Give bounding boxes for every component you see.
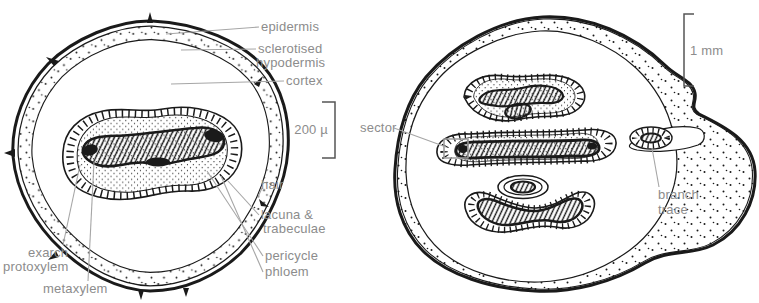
label-cortex: cortex bbox=[286, 74, 323, 88]
scale-label-200u: 200 µ bbox=[290, 123, 328, 137]
label-trace: trace bbox=[658, 203, 688, 217]
label-pericycle: pericycle bbox=[265, 249, 318, 263]
label-phloem: phloem bbox=[265, 265, 309, 279]
botanical-figure: epidermis sclerotised hypodermis cortex … bbox=[0, 0, 759, 303]
label-branch: branch bbox=[658, 188, 699, 202]
right-middle-bundle bbox=[437, 130, 616, 166]
right-cross-section bbox=[395, 17, 755, 291]
label-sclerotised: sclerotised bbox=[258, 42, 322, 56]
label-epidermis: epidermis bbox=[261, 20, 319, 34]
label-lacuna: lacuna & bbox=[261, 208, 313, 222]
label-metaxylem: metaxylem bbox=[43, 282, 108, 296]
scale-label-1mm: 1 mm bbox=[690, 44, 723, 58]
label-hypodermis: hypodermis bbox=[256, 56, 325, 70]
label-hair: hair bbox=[261, 178, 283, 192]
label-exarch: exarch bbox=[28, 246, 68, 260]
label-trabeculae: trabeculae bbox=[263, 222, 326, 236]
left-stele-bundle bbox=[63, 107, 242, 199]
label-protoxylem: protoxylem bbox=[3, 260, 69, 274]
cross-section-drawing bbox=[0, 0, 759, 303]
label-sector: sector bbox=[360, 121, 397, 135]
right-top-bundle bbox=[464, 75, 585, 120]
right-small-bundle bbox=[498, 176, 548, 199]
branch-trace-bundle bbox=[630, 127, 672, 149]
